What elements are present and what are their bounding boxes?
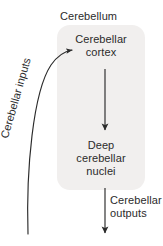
node-deep-cerebellar-nuclei-line-1: Deep [57,139,145,152]
page-title: Cerebellum [0,10,163,23]
node-deep-cerebellar-nuclei-line-2: cerebellar [57,152,145,165]
cerebellar-outputs-label: Cerebellar outputs [110,194,163,220]
node-cerebellar-cortex-line-2: cortex [57,46,145,59]
node-deep-cerebellar-nuclei: Deep cerebellar nuclei [57,139,145,178]
node-cerebellar-cortex-line-1: Cerebellar [57,33,145,46]
node-cerebellar-cortex: Cerebellar cortex [57,33,145,59]
cerebellar-outputs-label-line-2: outputs [110,207,163,220]
node-deep-cerebellar-nuclei-line-3: nuclei [57,165,145,178]
cerebellum-diagram: Cerebellum Cerebellar cortex Deep cerebe… [0,0,163,246]
cerebellar-outputs-label-line-1: Cerebellar [110,194,163,207]
